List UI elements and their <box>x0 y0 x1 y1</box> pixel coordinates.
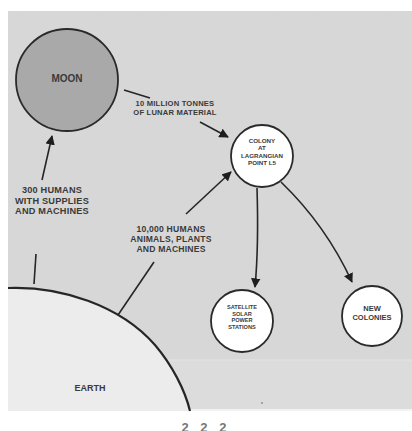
satellite-label: SATELLITE SOLAR POWER STATIONS <box>212 304 272 331</box>
edge-label-line: AND MACHINES <box>112 245 230 255</box>
colony-label-line: AT <box>232 144 292 151</box>
edge-label-moon-colony: 10 MILLION TONNES OF LUNAR MATERIAL <box>120 100 230 117</box>
satellite-label-line: SOLAR <box>212 311 272 318</box>
edge-label-earth-colony: 10,000 HUMANS ANIMALS, PLANTS AND MACHIN… <box>112 225 230 255</box>
colony-label-line: COLONY <box>232 137 292 144</box>
space-colonization-diagram: MOON COLONY AT LAGRANGIAN POINT L5 SATEL… <box>0 0 412 431</box>
edge-label-line: AND MACHINES <box>6 206 98 217</box>
satellite-label-line: POWER <box>212 317 272 324</box>
speck <box>261 402 263 404</box>
earth-label-text: EARTH <box>50 383 130 394</box>
edge-label-earth-moon: 300 HUMANS WITH SUPPLIES AND MACHINES <box>6 185 98 217</box>
colony-label-line: LAGRANGIAN <box>232 152 292 159</box>
earth-label: EARTH <box>50 383 130 394</box>
new-colonies-label-line: NEW <box>342 304 402 313</box>
edge-label-line: OF LUNAR MATERIAL <box>120 109 230 118</box>
colony-label-line: POINT L5 <box>232 159 292 166</box>
edge-label-line: WITH SUPPLIES <box>6 196 98 207</box>
edge-label-line: 300 HUMANS <box>6 185 98 196</box>
page-number-partial: 2 2 2 <box>176 421 236 431</box>
new-colonies-label: NEW COLONIES <box>342 304 402 322</box>
colony-label: COLONY AT LAGRANGIAN POINT L5 <box>232 137 292 167</box>
satellite-label-line: SATELLITE <box>212 304 272 311</box>
satellite-label-line: STATIONS <box>212 324 272 331</box>
new-colonies-label-line: COLONIES <box>342 313 402 322</box>
moon-label: MOON <box>27 73 107 85</box>
moon-label-text: MOON <box>27 73 107 85</box>
